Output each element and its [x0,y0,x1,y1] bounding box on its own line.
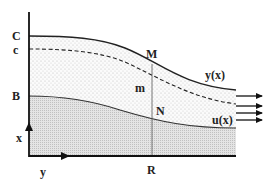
label-c: c [13,43,19,57]
label-R: R [147,163,156,177]
label-u-of-x: u(x) [212,113,233,127]
label-C: C [12,29,21,43]
label-y-of-x: y(x) [205,68,225,82]
label-B: B [12,89,20,103]
label-N: N [156,104,165,118]
label-m: m [135,81,145,95]
flow-diagram: C c B x y M m N R y(x) u(x) [0,0,276,184]
outflow-arrows [236,96,262,120]
label-x-axis: x [16,131,22,145]
label-y-axis: y [40,165,46,179]
label-M: M [146,47,157,61]
